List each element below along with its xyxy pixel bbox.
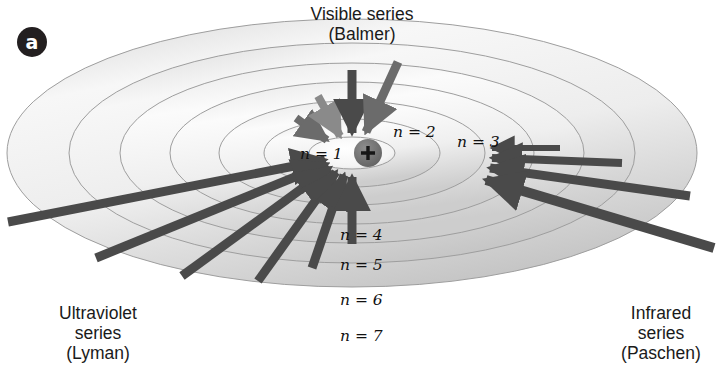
orbit-label-n6: n = 6 <box>340 291 383 309</box>
nucleus <box>354 139 382 167</box>
bohr-model-figure: a Visible series (Balmer) Ultraviolet se… <box>0 0 716 380</box>
panel-label-badge: a <box>17 27 47 57</box>
orbit-label-n7: n = 7 <box>340 327 383 345</box>
series-label-visible-balmer: Visible series (Balmer) <box>242 4 482 44</box>
shell-rings <box>7 19 697 287</box>
orbit-label-n2: n = 2 <box>393 123 436 141</box>
series-label-ultraviolet-lyman: Ultraviolet series (Lyman) <box>0 303 196 363</box>
series-label-infrared-paschen: Infrared series (Paschen) <box>606 303 716 363</box>
orbit-label-n5: n = 5 <box>340 256 383 274</box>
orbit-label-n3: n = 3 <box>457 133 500 151</box>
orbit-label-n4: n = 4 <box>340 226 383 244</box>
orbit-label-n1: n = 1 <box>300 145 343 163</box>
paschen-arrow-5to3 <box>492 158 622 163</box>
